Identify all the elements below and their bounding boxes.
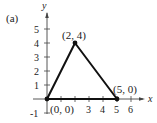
x-axis-label: x: [147, 93, 153, 104]
svg-text:-1: -1: [30, 108, 38, 119]
y-axis-label: y: [41, 0, 47, 11]
vertex-label-0-0: (0, 0): [50, 103, 74, 116]
svg-text:3: 3: [34, 52, 39, 63]
vertex-label-2-4: (2, 4): [62, 29, 86, 42]
svg-text:5: 5: [34, 24, 39, 35]
vertex-2-4: [73, 41, 78, 46]
y-axis-arrow-icon: [45, 12, 49, 18]
svg-text:4: 4: [100, 104, 105, 115]
vertex-5-0: [115, 97, 120, 102]
svg-text:1: 1: [34, 80, 39, 91]
svg-text:3: 3: [86, 104, 91, 115]
vertex-label-5-0: (5, 0): [113, 83, 137, 96]
svg-text:5: 5: [114, 104, 119, 115]
panel-label: (a): [6, 12, 19, 25]
x-axis-arrow-icon: [139, 97, 145, 101]
chart: (a) y x 5 4 3 2 1 -1 3 4 5 6 (0,: [0, 0, 157, 123]
triangle: [47, 43, 117, 99]
svg-text:2: 2: [34, 66, 39, 77]
svg-text:4: 4: [34, 38, 39, 49]
vertex-0-0: [45, 97, 50, 102]
svg-text:6: 6: [128, 104, 133, 115]
